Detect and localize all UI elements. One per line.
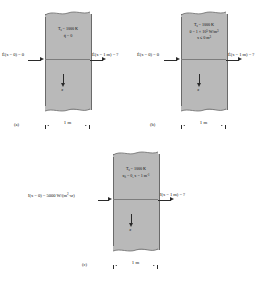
- slab-b-top-wave: [181, 8, 226, 17]
- slab-a-top-wave: [45, 8, 90, 17]
- panel-c-caption: (c): [82, 262, 87, 267]
- panel-a: Ts = 1000 K q̇ = 0 Ė(x = 0) = 0 Ė(x = …: [0, 0, 136, 140]
- slab-a-property-line-2: q̇ = 0: [44, 33, 92, 38]
- slab-a-outflow-arrow: [90, 56, 135, 64]
- slab-a-centerline: [45, 59, 90, 60]
- slab-c-x-axis-label: x: [129, 227, 131, 232]
- slab-b-properties: Ts = 1000 K θ = 1 × 105 W/m3 x ≤ 0 m3: [180, 22, 228, 41]
- slab-b-dimension: 1 m: [176, 120, 231, 130]
- slab-b-property-line-3: x ≤ 0 m3: [180, 35, 228, 41]
- range-exponent: 3: [210, 35, 212, 39]
- slab-b-dimension-label: 1 m: [198, 120, 209, 125]
- slab-b-outflow-label: Ė(x = 1 m) = ?: [228, 52, 254, 57]
- slab-a-bottom-wave: [45, 106, 90, 115]
- slab-b-x-axis: x: [196, 74, 208, 94]
- temp-value: = 1000 K: [130, 166, 146, 171]
- range-symbol: x ≤ 0 m: [197, 35, 210, 40]
- generation-symbol: θ = 1 × 10: [190, 29, 207, 34]
- slab-c-outflow-label: I(x = 1 m) = ?: [160, 192, 185, 197]
- slab-a-property-line-1: Ts = 1000 K: [44, 26, 92, 33]
- absorption-value: = 0, x = 1 m: [126, 173, 147, 178]
- absorption-exponent: -1: [147, 173, 149, 177]
- temp-value: = 1000 K: [62, 26, 78, 31]
- generation-units-exponent: 3: [217, 29, 219, 33]
- panel-b: Ts = 1000 K θ = 1 × 105 W/m3 x ≤ 0 m3 Ė…: [136, 0, 272, 140]
- slab-c-properties: Ts = 1000 K κλ = 0, x = 1 m-1: [112, 166, 160, 180]
- generation-units: W/m: [208, 29, 217, 34]
- slab-b-centerline: [181, 59, 226, 60]
- slab-a-outflow-label: Ė(x = 1 m) = ?: [92, 52, 118, 57]
- slab-a-x-axis-label: x: [61, 87, 63, 92]
- panel-c: Ts = 1000 K κλ = 0, x = 1 m-1 I(x = 0) =…: [68, 140, 204, 281]
- slab-a-dimension-label: 1 m: [62, 120, 73, 125]
- slab-c-x-axis: x: [128, 214, 140, 234]
- slab-c-outflow-arrow: [158, 196, 203, 204]
- slab-b-bottom-wave: [181, 106, 226, 115]
- slab-a-inflow-label: Ė(x = 0) = 0: [2, 52, 24, 57]
- slab-a-properties: Ts = 1000 K q̇ = 0: [44, 26, 92, 38]
- slab-b-x-axis-label: x: [197, 87, 199, 92]
- intensity-in-symbol: I(x = 0) = 5000 W/(m: [28, 193, 67, 198]
- slab-c-inflow-label: I(x = 0) = 5000 W/(m2·sr): [28, 192, 75, 198]
- slab-b-inflow-arrow: [136, 56, 181, 64]
- slab-c-dimension-label: 1 m: [130, 260, 141, 265]
- panel-a-caption: (a): [14, 122, 19, 127]
- slab-c-top-wave: [113, 148, 158, 157]
- panel-b-caption: (b): [150, 122, 155, 127]
- temp-value: = 1000 K: [198, 22, 214, 27]
- slab-a-x-axis: x: [60, 74, 72, 94]
- slab-b-property-line-1: Ts = 1000 K: [180, 22, 228, 29]
- slab-c-dimension: 1 m: [108, 260, 163, 270]
- slab-b-inflow-label: Ė(x = 0) = 0: [137, 52, 159, 57]
- intensity-in-units: ·sr): [68, 193, 74, 198]
- slab-c-property-line-2: κλ = 0, x = 1 m-1: [112, 173, 160, 180]
- slab-c-property-line-1: Ts = 1000 K: [112, 166, 160, 173]
- slab-c-bottom-wave: [113, 246, 158, 255]
- slab-a-inflow-arrow: [0, 56, 45, 64]
- slab-b-outflow-arrow: [226, 56, 271, 64]
- slab-c-centerline: [113, 199, 158, 200]
- slab-a-dimension: 1 m: [40, 120, 95, 130]
